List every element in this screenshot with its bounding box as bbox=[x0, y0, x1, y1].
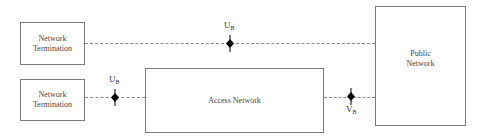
network-termination-bottom-box: Network Termination bbox=[20, 79, 85, 121]
ub-top-label: UB bbox=[224, 20, 235, 31]
nt-bottom-line2: Termination bbox=[33, 100, 72, 110]
access-network-label: Access Network bbox=[208, 96, 261, 106]
public-network-box: Public Network bbox=[375, 6, 466, 126]
network-termination-top-box: Network Termination bbox=[20, 22, 85, 65]
ub-top-node-icon bbox=[222, 35, 238, 52]
vb-node-icon bbox=[343, 88, 359, 105]
public-line2: Network bbox=[407, 59, 435, 69]
access-network-box: Access Network bbox=[145, 68, 324, 133]
nt-bottom-line1: Network bbox=[33, 90, 72, 100]
ub-bottom-node-icon bbox=[107, 89, 123, 106]
nt-top-line1: Network bbox=[33, 34, 72, 44]
ub-bottom-label: UB bbox=[109, 74, 120, 85]
vb-label: VB bbox=[346, 104, 357, 115]
nt-top-line2: Termination bbox=[33, 44, 72, 54]
public-line1: Public bbox=[407, 49, 435, 59]
